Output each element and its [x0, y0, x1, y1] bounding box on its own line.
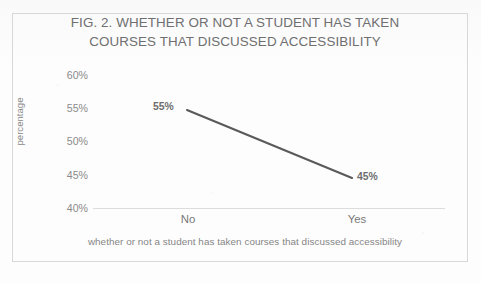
x-axis-title: whether or not a student has taken cours…: [55, 236, 435, 247]
line-segment-no-to-yes: [187, 110, 352, 178]
plot-area: 55% 45%: [93, 70, 445, 209]
y-tick-label-55: 55%: [42, 102, 88, 114]
chart-title-line-second: COURSES THAT DISCUSSED ACCESSIBILITY: [40, 32, 430, 51]
y-axis-title: percentage: [14, 82, 25, 162]
y-tick-label-50: 50%: [42, 135, 88, 147]
data-label-no: 55%: [153, 101, 174, 112]
x-tick-label-no: No: [133, 213, 243, 225]
figure-container: FIG. 2. WHETHER OR NOT A STUDENT HAS TAK…: [0, 0, 481, 284]
line-series-svg: [93, 70, 445, 209]
y-tick-label-60: 60%: [42, 69, 88, 81]
x-tick-label-yes: Yes: [302, 213, 412, 225]
chart-title-line-first: FIG. 2. WHETHER OR NOT A STUDENT HAS TAK…: [40, 13, 430, 32]
data-label-yes: 45%: [357, 171, 378, 182]
chart-title: FIG. 2. WHETHER OR NOT A STUDENT HAS TAK…: [40, 13, 430, 51]
y-tick-label-45: 45%: [42, 169, 88, 181]
y-tick-label-40: 40%: [42, 202, 88, 214]
